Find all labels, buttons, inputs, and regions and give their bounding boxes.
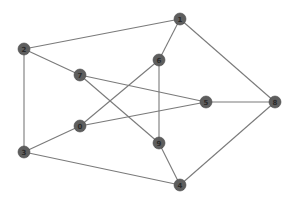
edge-7-5 <box>80 75 206 102</box>
node-8: 8 <box>269 96 281 108</box>
edge-6-0 <box>80 60 159 126</box>
node-label: 5 <box>204 99 209 107</box>
graph-canvas: 1276580394 <box>0 0 297 203</box>
node-3: 3 <box>18 146 30 158</box>
node-label: 2 <box>22 46 27 54</box>
node-label: 8 <box>273 99 278 107</box>
node-2: 2 <box>18 43 30 55</box>
edge-1-8 <box>180 19 275 102</box>
edge-5-0 <box>80 102 206 126</box>
edge-7-9 <box>80 75 159 143</box>
node-1: 1 <box>174 13 186 25</box>
node-5: 5 <box>200 96 212 108</box>
edge-0-3 <box>24 126 80 152</box>
node-0: 0 <box>74 120 86 132</box>
node-9: 9 <box>153 137 165 149</box>
edge-1-2 <box>24 19 180 49</box>
node-label: 0 <box>78 123 83 131</box>
node-label: 4 <box>178 182 183 190</box>
node-6: 6 <box>153 54 165 66</box>
node-label: 3 <box>22 149 27 157</box>
node-label: 6 <box>157 57 162 65</box>
node-7: 7 <box>74 69 86 81</box>
edge-8-4 <box>180 102 275 185</box>
node-4: 4 <box>174 179 186 191</box>
node-label: 7 <box>78 72 83 80</box>
node-label: 9 <box>157 140 162 148</box>
edge-3-4 <box>24 152 180 185</box>
edge-9-4 <box>159 143 180 185</box>
edge-1-6 <box>159 19 180 60</box>
edge-2-7 <box>24 49 80 75</box>
edges-layer <box>24 19 275 185</box>
node-label: 1 <box>178 16 183 24</box>
